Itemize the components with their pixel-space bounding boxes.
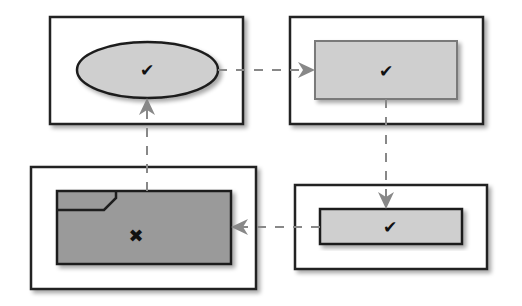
failed-rectangle	[57, 191, 231, 264]
check-icon: ✔	[383, 217, 397, 237]
check-icon: ✔	[140, 60, 154, 80]
node-failed[interactable]: ✖	[31, 167, 256, 289]
state-flow-diagram: ✔ ✔ ✔ ✖	[0, 0, 522, 306]
cross-icon: ✖	[128, 225, 143, 246]
check-icon: ✔	[379, 61, 393, 81]
